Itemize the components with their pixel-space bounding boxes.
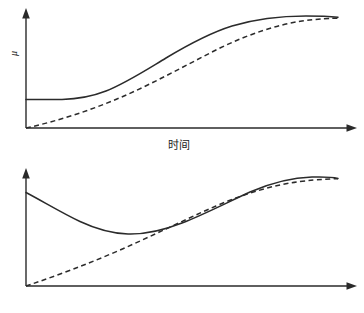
y-axis-label-top: μ xyxy=(8,43,19,65)
dashed-curve-bottom xyxy=(26,179,338,286)
chart-svg-top xyxy=(0,0,364,158)
solid-curve-bottom xyxy=(26,177,338,234)
figure-container: μ 时间 Δβ 时间 xyxy=(0,0,364,313)
chart-svg-bottom xyxy=(0,158,364,313)
solid-curve-top xyxy=(26,16,338,100)
dashed-curve-top xyxy=(26,18,338,128)
x-axis-label-top: 时间 xyxy=(168,136,190,152)
chart-panel-top: μ 时间 xyxy=(0,0,364,158)
chart-panel-bottom: Δβ 时间 xyxy=(0,158,364,313)
y-axis-arrow-top xyxy=(22,8,30,19)
y-axis-label-top-text: μ xyxy=(8,51,19,56)
x-axis-arrow-top xyxy=(347,124,358,132)
x-axis-arrow-bottom xyxy=(347,282,358,290)
y-axis-arrow-bottom xyxy=(22,168,30,179)
